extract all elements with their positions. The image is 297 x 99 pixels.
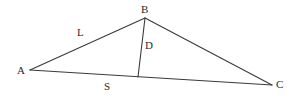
segment-cevian-bd [138,18,145,77]
vertex-label-b: B [141,3,148,15]
segment-label-s: S [104,80,110,92]
segment-ab [30,18,145,70]
segment-bc [145,18,272,85]
segment-label-l: L [77,26,84,38]
segment-label-d: D [145,39,153,51]
segment-ac [30,70,272,85]
vertex-label-a: A [17,64,25,76]
triangle-diagram: A B C L D S [0,0,297,99]
vertex-label-c: C [276,78,283,90]
triangle-diagram-canvas: A B C L D S [0,0,297,99]
